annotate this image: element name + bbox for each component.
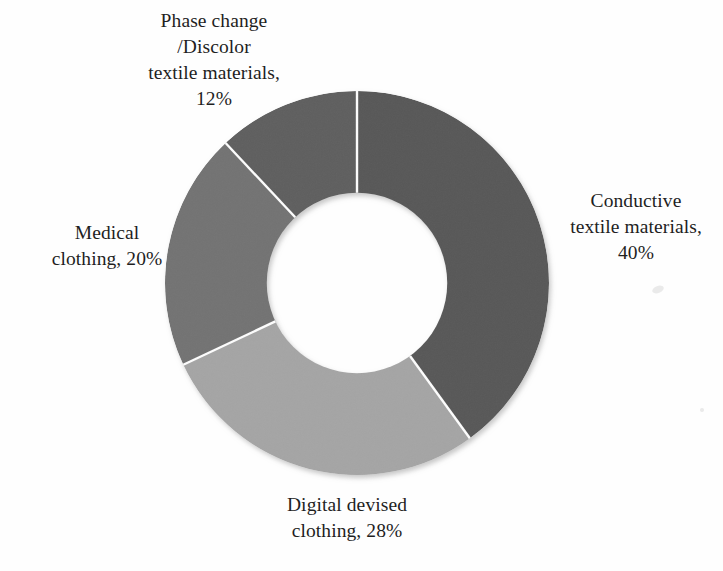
- slice-label-phase-change: Phase change /Discolor textile materials…: [96, 8, 332, 112]
- chart-canvas: Phase change /Discolor textile materials…: [0, 0, 723, 571]
- slice-label-conductive: Conductive textile materials, 40%: [548, 188, 723, 266]
- scan-speck-icon: [700, 408, 704, 412]
- halftone-grain: [150, 80, 570, 490]
- slice-label-medical: Medical clothing, 20%: [14, 220, 200, 272]
- slice-label-digital-devised: Digital devised clothing, 28%: [230, 492, 464, 544]
